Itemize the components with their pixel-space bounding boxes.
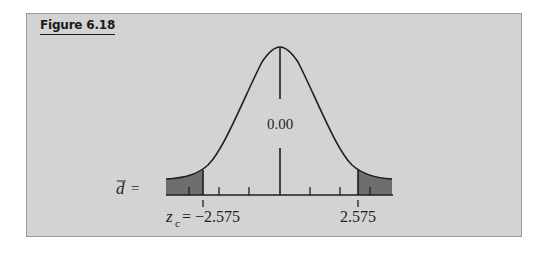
left-critical-label: = −2.575 (182, 208, 240, 225)
dbar-label: d (116, 179, 125, 198)
dbar-equals: = (131, 180, 139, 196)
center-value-label: 0.00 (267, 116, 293, 132)
zc-subscript: c (175, 217, 180, 229)
right-critical-label: 2.575 (340, 208, 376, 225)
zc-symbol: z (165, 207, 173, 226)
left-tail-shade (166, 170, 203, 195)
normal-curve (166, 47, 392, 179)
normal-curve-chart: 0.00 d = z c = −2.575 2.575 (0, 0, 547, 254)
right-tail-shade (358, 170, 392, 195)
